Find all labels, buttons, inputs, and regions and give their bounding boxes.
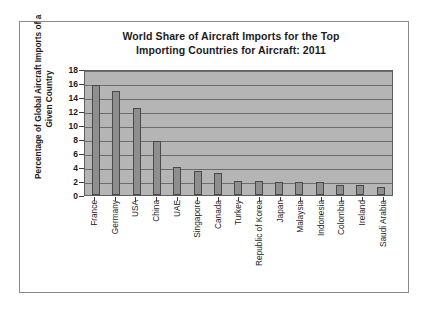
x-tick-label: USA [131, 200, 140, 217]
bar-slot [188, 71, 208, 195]
y-tick-label: 4 [73, 164, 78, 173]
x-tick-label: Germany [110, 200, 119, 234]
y-tick-label: 18 [69, 66, 78, 75]
x-tick-label: Saudi Arabia [378, 200, 387, 247]
bar[interactable] [234, 181, 242, 195]
x-tick-slot: Saudi Arabia [372, 197, 393, 289]
x-tick-slot: Turkey [228, 197, 249, 289]
bar[interactable] [112, 91, 120, 195]
bar-slot [350, 71, 370, 195]
bar[interactable] [194, 171, 202, 195]
x-tick-label: Canada [213, 200, 222, 229]
x-tick-label: Singapore [193, 200, 202, 238]
bar[interactable] [356, 185, 364, 195]
bar-slot [269, 71, 289, 195]
bar-series [85, 71, 392, 195]
bar[interactable] [255, 181, 263, 195]
bar-slot [147, 71, 167, 195]
x-tick-slot: Canada [208, 197, 229, 289]
bar[interactable] [316, 182, 324, 195]
bar-slot [249, 71, 269, 195]
y-tick-label: 10 [69, 122, 78, 131]
x-tick-label: China [152, 200, 161, 222]
bar-slot [330, 71, 350, 195]
x-tick-slot: France [84, 197, 105, 289]
y-tick-label: 2 [73, 178, 78, 187]
x-tick-slot: Colombia [331, 197, 352, 289]
x-tick-slot: Republic of Korea [249, 197, 270, 289]
x-tick-label: UAE [172, 200, 181, 217]
bar[interactable] [133, 108, 141, 195]
x-tick-label: Malaysia [296, 200, 305, 233]
plot-area [84, 70, 393, 196]
x-tick-slot: Malaysia [290, 197, 311, 289]
bar[interactable] [214, 173, 222, 195]
bar[interactable] [275, 182, 283, 195]
x-tick-slot: Indonesia [311, 197, 332, 289]
x-tick-label: Japan [275, 200, 284, 223]
bar-slot [208, 71, 228, 195]
x-tick-slot: Germany [105, 197, 126, 289]
chart-title: World Share of Aircraft Imports for the … [66, 29, 396, 57]
bar[interactable] [377, 187, 385, 195]
y-tick-label: 8 [73, 136, 78, 145]
y-tick-label: 0 [73, 192, 78, 201]
x-tick-slot: USA [125, 197, 146, 289]
bar[interactable] [173, 167, 181, 195]
bar[interactable] [92, 85, 100, 195]
bar-slot [228, 71, 248, 195]
x-tick-label: Ireland [358, 200, 367, 225]
y-tick-label: 12 [69, 108, 78, 117]
x-tick-label: Colombia [337, 200, 346, 235]
x-tick-slot: Singapore [187, 197, 208, 289]
y-tick-label: 6 [73, 150, 78, 159]
y-tick-label: 14 [69, 94, 78, 103]
bar-slot [310, 71, 330, 195]
y-tick-label: 16 [69, 80, 78, 89]
x-tick-label: Turkey [234, 200, 243, 225]
bar[interactable] [336, 185, 344, 195]
bar-slot [289, 71, 309, 195]
y-axis-ticks: 024681012141618 [20, 70, 84, 196]
chart-title-line-1: World Share of Aircraft Imports for the … [66, 29, 396, 43]
x-tick-label: France [90, 200, 99, 226]
bar[interactable] [153, 141, 161, 195]
x-tick-label: Indonesia [316, 200, 325, 236]
x-tick-slot: Japan [269, 197, 290, 289]
bar-slot [167, 71, 187, 195]
x-tick-slot: Ireland [352, 197, 373, 289]
chart-title-line-2: Importing Countries for Aircraft: 2011 [66, 43, 396, 57]
x-axis-ticks: FranceGermanyUSAChinaUAESingaporeCanadaT… [84, 197, 393, 289]
x-tick-label: Republic of Korea [255, 200, 264, 266]
bar-slot [127, 71, 147, 195]
x-tick-slot: China [146, 197, 167, 289]
bar-slot [86, 71, 106, 195]
bar-slot [106, 71, 126, 195]
x-tick-slot: UAE [166, 197, 187, 289]
chart-figure: World Share of Aircraft Imports for the … [19, 21, 409, 293]
bar[interactable] [295, 182, 303, 195]
bar-slot [371, 71, 391, 195]
